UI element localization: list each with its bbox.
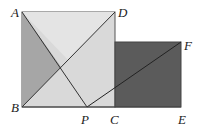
label-f: F (183, 38, 193, 53)
label-a: A (10, 5, 19, 20)
label-p: P (80, 112, 89, 127)
label-d: D (117, 5, 128, 20)
geometry-diagram: A D B C P F E (0, 0, 202, 129)
label-c: C (110, 112, 119, 127)
label-e: E (177, 112, 186, 127)
label-b: B (11, 100, 19, 115)
square-cef (115, 42, 181, 107)
